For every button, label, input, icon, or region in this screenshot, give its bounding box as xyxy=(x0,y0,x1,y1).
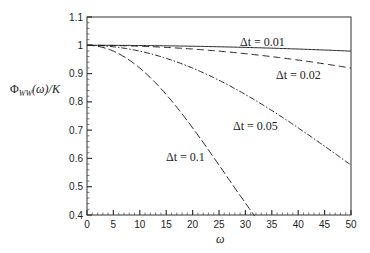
annotation-dt-0.05: Δt = 0.05 xyxy=(233,119,278,133)
x-tick-label: 10 xyxy=(134,219,146,230)
annotation-dt-0.01: Δt = 0.01 xyxy=(240,35,285,49)
x-tick-label: 30 xyxy=(240,219,252,230)
x-tick-label: 0 xyxy=(84,219,90,230)
annotation-dt-0.02: Δt = 0.02 xyxy=(276,68,321,82)
x-tick-label: 5 xyxy=(111,219,117,230)
y-tick-label: 1 xyxy=(77,40,83,51)
y-tick-label: 0.8 xyxy=(69,96,83,107)
curve-0.1 xyxy=(87,45,255,216)
x-tick-label: 45 xyxy=(319,219,331,230)
axis-ticks: 051015202530354045500.40.50.60.70.80.911… xyxy=(69,12,357,231)
y-label-k: K xyxy=(51,82,61,96)
y-tick-label: 0.6 xyxy=(69,153,83,164)
x-tick-label: 40 xyxy=(293,219,305,230)
y-tick-label: 0.9 xyxy=(69,68,83,79)
y-label-phi: Φ xyxy=(10,82,19,96)
x-axis-label: ω xyxy=(216,232,224,246)
x-tick-label: 15 xyxy=(161,219,173,230)
annotation-dt-0.1: Δt = 0.1 xyxy=(166,150,205,164)
y-axis-label: ΦWW(ω)/K xyxy=(10,82,61,98)
x-tick-label: 35 xyxy=(266,219,278,230)
y-label-rest: (ω)/ xyxy=(32,82,53,96)
y-tick-label: 1.1 xyxy=(69,12,83,23)
line-chart: 051015202530354045500.40.50.60.70.80.911… xyxy=(0,0,370,253)
curve-0.05 xyxy=(87,45,351,165)
y-tick-label: 0.7 xyxy=(69,125,83,136)
x-tick-label: 50 xyxy=(345,219,357,230)
y-tick-label: 0.5 xyxy=(69,181,83,192)
x-tick-label: 25 xyxy=(213,219,225,230)
x-tick-label: 20 xyxy=(187,219,199,230)
y-tick-label: 0.4 xyxy=(69,210,83,221)
